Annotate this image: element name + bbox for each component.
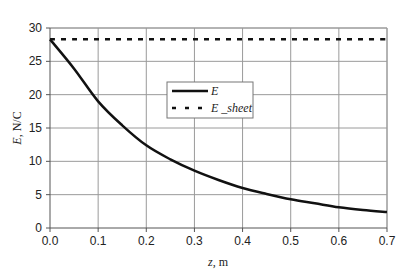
series-line-e	[50, 39, 387, 212]
y-tick-label: 30	[29, 21, 43, 35]
x-tick-label: 0.5	[282, 234, 299, 248]
x-tick-label: 0.0	[42, 234, 59, 248]
x-axis-label: z, m	[207, 255, 229, 269]
y-tick-label: 5	[35, 188, 42, 202]
y-axis-label-unit: , N/C	[10, 111, 24, 137]
x-tick-label: 0.7	[379, 234, 396, 248]
x-axis-ticks: 0.00.10.20.30.40.50.60.7	[42, 228, 396, 248]
x-tick-label: 0.4	[234, 234, 251, 248]
x-tick-label: 0.2	[138, 234, 155, 248]
x-tick-label: 0.1	[90, 234, 107, 248]
y-tick-label: 0	[35, 221, 42, 235]
y-tick-label: 20	[29, 88, 43, 102]
x-axis-label-unit: , m	[213, 255, 229, 269]
y-axis-ticks: 051015202530	[29, 21, 50, 235]
legend: E E _sheet	[167, 82, 253, 118]
legend-label-e: E	[210, 84, 219, 98]
y-axis-label: E, N/C	[10, 111, 24, 145]
legend-label-e-sheet: E _sheet	[210, 101, 253, 115]
y-tick-label: 10	[29, 154, 43, 168]
data-series	[50, 39, 387, 212]
x-tick-label: 0.3	[186, 234, 203, 248]
x-tick-label: 0.6	[331, 234, 348, 248]
y-tick-label: 25	[29, 54, 43, 68]
grid-lines	[50, 28, 387, 228]
y-tick-label: 15	[29, 121, 43, 135]
line-chart: 051015202530 0.00.10.20.30.40.50.60.7 E,…	[0, 0, 404, 277]
